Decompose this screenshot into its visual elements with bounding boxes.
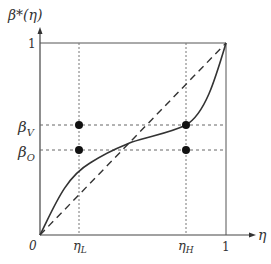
beta-V-label: βV xyxy=(17,118,36,138)
x-axis-arrow-icon xyxy=(249,233,256,238)
diagonal-line xyxy=(40,43,226,235)
marker-etaH-betaV xyxy=(182,121,190,129)
y-one-label: 1 xyxy=(28,37,36,51)
y-axis-label: β*(η) xyxy=(7,7,42,23)
eta-L-label: ηL xyxy=(73,238,87,255)
y-axis-arrow-icon xyxy=(38,27,43,34)
x-axis-label: η xyxy=(258,227,267,243)
marker-etaL-betaO xyxy=(75,146,83,154)
origin-label: 0 xyxy=(29,239,37,253)
chart-canvas: β*(η) 1 βV βO 0 ηL ηH 1 η xyxy=(0,0,271,264)
marker-etaH-betaO xyxy=(182,146,190,154)
marker-etaL-betaV xyxy=(75,121,83,129)
beta-O-label: βO xyxy=(17,143,35,163)
eta-H-label: ηH xyxy=(178,238,194,255)
x-one-label: 1 xyxy=(222,240,230,254)
